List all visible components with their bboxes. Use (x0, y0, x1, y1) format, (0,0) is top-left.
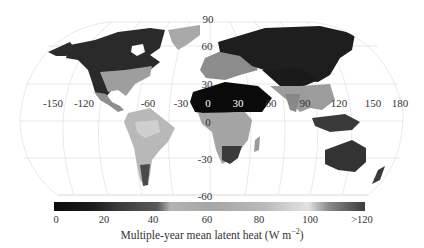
lon-label: 90 (300, 98, 311, 109)
south-america (124, 108, 175, 186)
patagonia (140, 164, 150, 186)
colorbar-label-exponent: −2 (291, 227, 300, 236)
lat-label: 60 (202, 41, 213, 52)
colorbar-label-text: Multiple-year mean latent heat (W m (121, 229, 292, 241)
colorbar-tick: 0 (53, 214, 58, 225)
colorbar-tick: >120 (351, 214, 373, 225)
madagascar (254, 136, 260, 152)
lon-label: 150 (365, 98, 382, 109)
colorbar-tick: 80 (254, 214, 265, 225)
lat-label: 30 (202, 79, 213, 90)
mexico-central-america (94, 92, 124, 112)
lon-label: 60 (266, 98, 277, 109)
lat-label: 90 (203, 14, 214, 25)
lat-label: -60 (198, 191, 213, 202)
colorbar-label-close: ) (300, 229, 304, 241)
lon-label: -60 (141, 98, 156, 109)
new-zealand (372, 166, 385, 184)
indonesia (312, 114, 360, 132)
lon-label: -30 (174, 98, 189, 109)
lon-label: 30 (233, 98, 244, 109)
lon-label: -120 (74, 98, 94, 109)
colorbar (54, 202, 365, 211)
lon-label: 120 (331, 98, 348, 109)
colorbar-tick: 20 (99, 214, 110, 225)
lat-label: -30 (198, 154, 213, 165)
lat-label: 0 (205, 117, 211, 128)
colorbar-tick: 100 (302, 214, 318, 225)
lon-label: 180 (392, 98, 409, 109)
colorbar-label: Multiple-year mean latent heat (W m−2) (0, 227, 424, 241)
australia (325, 140, 366, 172)
colorbar-tick: 60 (202, 214, 213, 225)
colorbar-tick: 40 (148, 214, 159, 225)
lon-label: 0 (205, 98, 211, 109)
lon-label: -150 (43, 98, 63, 109)
southern-africa (222, 146, 242, 164)
